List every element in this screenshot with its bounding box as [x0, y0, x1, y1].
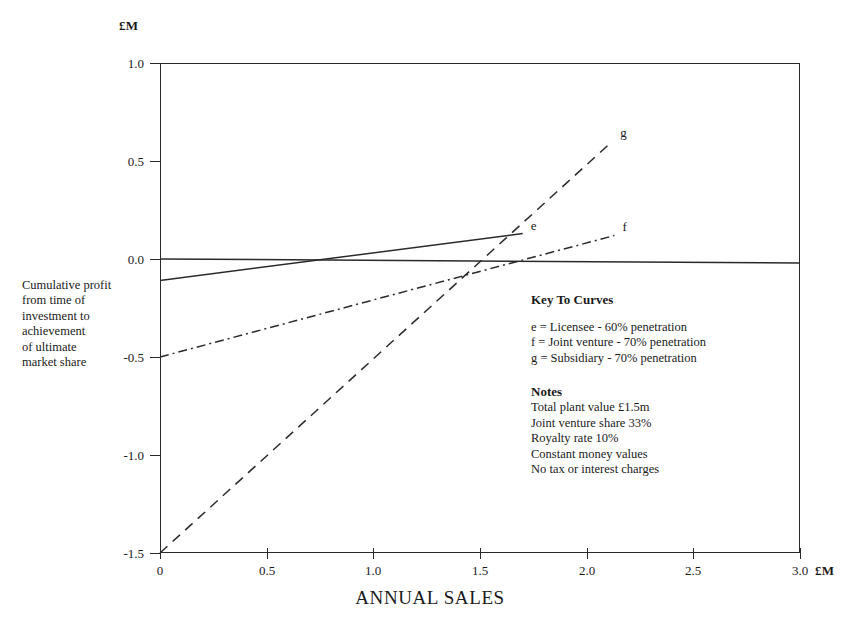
x-axis-unit-label: £M — [815, 563, 834, 579]
x-tick-label: 1.5 — [450, 563, 510, 579]
x-tick-mark — [160, 548, 161, 559]
x-tick-mark — [480, 548, 481, 559]
y-tick-mark — [150, 455, 161, 456]
y-tick-mark — [150, 357, 161, 358]
x-tick-label: 2.5 — [663, 563, 723, 579]
x-tick-mark — [587, 548, 588, 559]
curve-label-f: f — [622, 219, 626, 235]
x-tick-mark — [693, 548, 694, 559]
y-tick-label: 0.5 — [88, 154, 144, 170]
y-axis-caption-line: market share — [22, 355, 138, 370]
x-axis-title: ANNUAL SALES — [0, 587, 860, 609]
x-tick-mark — [373, 548, 374, 559]
notes-list: Total plant value £1.5m Joint venture sh… — [531, 400, 706, 478]
curve-label-g: g — [620, 125, 627, 141]
y-tick-label: -1.5 — [88, 546, 144, 562]
x-tick-label: 1.0 — [343, 563, 403, 579]
key-entry-list: e = Licensee - 60% penetration f = Joint… — [531, 320, 706, 367]
note-item: Royalty rate 10% — [531, 431, 706, 447]
y-tick-label: 0.0 — [88, 252, 144, 268]
y-tick-label: 1.0 — [88, 56, 144, 72]
y-tick-mark — [150, 161, 161, 162]
y-axis-caption-line: from time of — [22, 293, 138, 308]
key-entry: g = Subsidiary - 70% penetration — [531, 351, 706, 367]
note-item: Joint venture share 33% — [531, 416, 706, 432]
y-tick-mark — [150, 259, 161, 260]
y-tick-mark — [150, 63, 161, 64]
key-heading: Key To Curves — [531, 292, 706, 308]
chart-container: £M 1.0 0.5 0.0 -0.5 -1.0 -1.5 0 0.5 1.0 … — [0, 0, 860, 633]
note-item: No tax or interest charges — [531, 462, 706, 478]
key-entry: e = Licensee - 60% penetration — [531, 320, 706, 336]
notes-heading: Notes — [531, 384, 706, 400]
y-axis-caption-line: of ultimate — [22, 340, 138, 355]
y-axis-caption-line: achievement — [22, 324, 138, 339]
note-item: Total plant value £1.5m — [531, 400, 706, 416]
key-to-curves-panel: Key To Curves e = Licensee - 60% penetra… — [531, 292, 706, 478]
x-tick-label: 0 — [130, 563, 190, 579]
x-tick-mark — [267, 548, 268, 559]
x-tick-label: 2.0 — [557, 563, 617, 579]
y-axis-unit-label: £M — [119, 18, 138, 34]
y-axis-caption-line: Cumulative profit — [22, 278, 138, 293]
note-item: Constant money values — [531, 447, 706, 463]
key-entry: f = Joint venture - 70% penetration — [531, 335, 706, 351]
x-tick-label: 0.5 — [237, 563, 297, 579]
y-axis-caption: Cumulative profit from time of investmen… — [22, 278, 138, 370]
y-tick-label: -1.0 — [88, 448, 144, 464]
x-tick-mark — [800, 548, 801, 559]
curve-label-e: e — [531, 218, 537, 234]
y-axis-caption-line: investment to — [22, 309, 138, 324]
